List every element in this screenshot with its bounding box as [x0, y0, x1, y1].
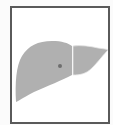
- liver-right-lobe: [16, 41, 72, 102]
- liver-diagram: [12, 8, 108, 122]
- liver-left-lobe: [73, 46, 108, 75]
- lesion-marker: [58, 64, 62, 68]
- diagram-frame: [10, 6, 110, 124]
